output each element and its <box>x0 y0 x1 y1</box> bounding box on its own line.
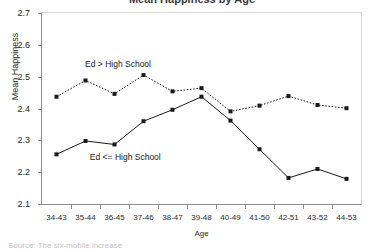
series-line <box>57 97 347 179</box>
x-axis-tick-label: 34-43 <box>46 214 66 222</box>
x-axis-tick-mark <box>216 205 217 209</box>
x-axis-tick-label: 37-46 <box>133 214 153 222</box>
x-axis-title: Age <box>41 230 362 238</box>
data-point-marker <box>200 86 204 90</box>
x-axis-tick-label: 44-53 <box>336 214 356 222</box>
source-note-cutoff: Source: The six-mobile increase <box>8 241 258 250</box>
x-axis-tick-label: 42-51 <box>278 214 298 222</box>
x-axis-tick-mark <box>303 205 304 209</box>
series-line <box>57 75 347 111</box>
y-axis-tick-label: 2.5 <box>17 72 30 81</box>
data-point-marker <box>113 142 117 146</box>
data-point-marker <box>200 95 204 99</box>
x-axis-tick-label: 41-50 <box>249 214 269 222</box>
y-axis-tick-label: 2.7 <box>17 9 30 18</box>
x-axis-tick-mark <box>100 205 101 209</box>
chart-title-text: Mean Happiness by Age <box>129 0 255 5</box>
x-axis-tick-label: 36-45 <box>104 214 124 222</box>
plot-area: Ed > High SchoolEd <= High School <box>41 12 362 205</box>
data-point-marker <box>142 73 146 77</box>
x-axis-tick-label: 40-49 <box>220 214 240 222</box>
data-point-marker <box>171 108 175 112</box>
x-axis-tick-mark <box>187 205 188 209</box>
data-point-marker <box>84 139 88 143</box>
chart-title-cutoff: Mean Happiness by Age <box>0 0 384 6</box>
data-point-marker <box>287 176 291 180</box>
series-canvas <box>42 13 361 204</box>
data-point-marker <box>258 104 262 108</box>
y-axis-ticks: 2.12.22.32.42.52.62.7 <box>0 12 38 205</box>
x-axis-tick-mark <box>71 205 72 209</box>
x-axis-tick-mark <box>129 205 130 209</box>
x-axis-tick-label: 35-44 <box>75 214 95 222</box>
data-point-marker <box>316 167 320 171</box>
y-axis-tick-label: 2.2 <box>17 168 30 177</box>
x-axis-tick-mark <box>332 205 333 209</box>
data-point-marker <box>84 78 88 82</box>
data-point-marker <box>229 109 233 113</box>
y-axis-tick-label: 2.4 <box>17 104 30 113</box>
chart-figure: Mean Happiness by Age Mean Happiness 2.1… <box>0 0 384 250</box>
data-point-marker <box>55 152 59 156</box>
x-axis-tick-mark <box>245 205 246 209</box>
series-annotation: Ed <= High School <box>90 153 161 162</box>
data-point-marker <box>345 106 349 110</box>
x-axis-tick-label: 43-52 <box>307 214 327 222</box>
x-axis-tick-label: 38-47 <box>162 214 182 222</box>
series-annotation: Ed > High School <box>85 60 151 69</box>
data-point-marker <box>229 119 233 123</box>
data-point-marker <box>287 94 291 98</box>
x-axis-ticks: 34-4335-4436-4537-4638-4739-4840-4941-50… <box>41 205 362 229</box>
x-axis-tick-label: 39-48 <box>191 214 211 222</box>
data-point-marker <box>171 89 175 93</box>
data-point-marker <box>345 177 349 181</box>
data-point-marker <box>316 103 320 107</box>
y-axis-tick-label: 2.6 <box>17 40 30 49</box>
x-axis-tick-mark <box>158 205 159 209</box>
x-axis-tick-mark <box>274 205 275 209</box>
data-point-marker <box>55 95 59 99</box>
data-point-marker <box>113 92 117 96</box>
y-axis-tick-label: 2.1 <box>17 200 30 209</box>
data-point-marker <box>258 147 262 151</box>
y-axis-tick-label: 2.3 <box>17 136 30 145</box>
data-point-marker <box>142 119 146 123</box>
